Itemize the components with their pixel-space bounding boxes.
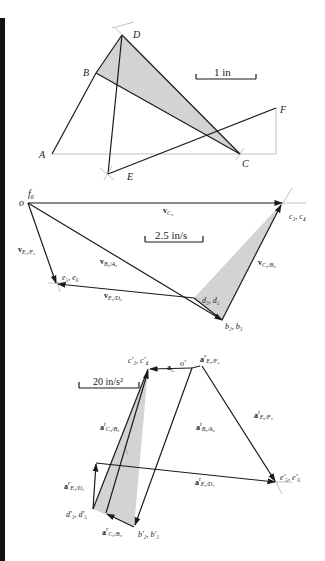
point-label-a: A [38,149,46,160]
point-label-o-prime: o′ [180,359,186,368]
label-a-c: aC [167,363,176,373]
point-label-f: F [279,104,287,115]
point-label-b: B [83,67,89,78]
point-label-b2p-b3p: b′₂, b′₃ [138,530,159,539]
vector-v-b2-a2 [28,203,222,320]
label-v-b2-a2: vB₂/A₂ [100,257,117,267]
scale-bar-1in: 1 in [196,66,256,79]
label-a-r-e6-f6: arE₆/F₆ [200,353,220,364]
point-label-e5-e6: e₅, e₆ [62,273,79,282]
scale-bar-velocity: 2.5 in/s [145,229,203,242]
point-label-e: E [126,171,133,182]
label-a-t-e5-d5: atE₅/D₅ [195,476,215,487]
scale-label-linkage: 1 in [214,66,231,78]
velocity-polygon: 2.5 in/s o f6 c₃, c₄ e₅, e₆ d₃, d₅ b₂, b… [18,188,306,331]
shaded-accel-image [93,369,148,527]
link-ab [52,73,96,154]
label-a-t-e6-f6: atE₆/F₆ [254,409,273,420]
vector-v-e6-f6 [28,203,56,283]
label-v-e6-f6: vE₆/F₆ [18,245,35,255]
construction-d [112,22,134,28]
point-label-f6: f6 [28,188,34,200]
label-a-r-c3-b3: arC₃/B₃ [102,526,122,537]
construction-e [100,168,114,180]
point-label-c3p-c4p: c′₃, c′₄ [128,356,148,365]
scale-bar-acceleration: 20 in/s² [79,376,139,388]
point-label-o: o [19,197,24,208]
point-label-d3-d5: d₃, d₅ [202,296,220,305]
point-label-e5p-e6p: e′₅, e′₆ [280,473,300,482]
point-label-d: D [132,29,141,40]
construction-e-vel2 [56,278,60,292]
point-label-c: C [242,158,249,169]
label-a-t-c3-b3: atC₃/B₃ [100,421,119,432]
vector-a-t-e6-f6 [202,366,275,481]
label-a-t-b2-a2: atB₂/A₂ [196,421,215,432]
label-v-c3-b3: vC₃/B₃ [258,258,276,268]
label-a-r-e5-d5: arE₅/D₅ [64,480,84,491]
scale-label-velocity: 2.5 in/s [155,229,187,241]
kinematic-diagram: 1 in A B C D E F 2.5 in/s o f6 c₃, c₄ e₅… [0,0,325,561]
label-v-c3: vC₃ [163,206,173,216]
label-v-e5-d5: vE₅/D₅ [104,291,122,301]
point-label-c3-c4: c₃, c₄ [289,212,306,221]
scale-label-acceleration: 20 in/s² [93,376,123,387]
point-label-d3p-d5p: d′₃, d′₅ [66,510,87,519]
shaded-link-bdc [96,35,240,154]
point-label-b2-b3: b₂, b₃ [225,322,243,331]
acceleration-polygon: 20 in/s² o′ c′₃, c′₄ e′₅, e′₆ d′₃, d′₅ b… [64,353,300,539]
linkage-diagram: 1 in A B C D E F [38,22,287,182]
vector-a-r-e6-f6 [192,366,200,368]
